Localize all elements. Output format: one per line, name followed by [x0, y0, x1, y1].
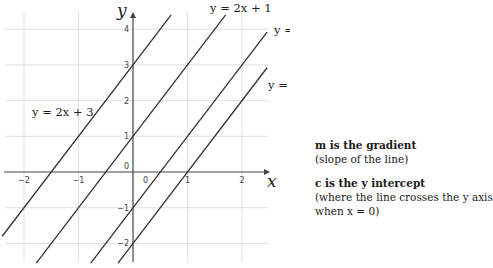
y-tick-label: 2	[124, 97, 129, 106]
label-eq2: y = 2x + 1	[209, 1, 272, 15]
axes	[4, 12, 270, 262]
y-tick-label: 1	[124, 132, 129, 141]
y-tick-label: 4	[124, 25, 129, 34]
explanation-notes: m is the gradient (slope of the line) c …	[315, 138, 425, 218]
series-line	[118, 68, 267, 263]
x-tick-label: 2	[239, 176, 244, 185]
series-line	[36, 15, 225, 263]
series-line	[2, 15, 171, 236]
gradient-desc: (slope of the line)	[315, 152, 425, 166]
x-tick-label: −2	[18, 176, 30, 185]
intercept-desc-1: (where the line crosses the y axis	[315, 190, 425, 204]
series-line	[91, 32, 267, 263]
origin-label: 0	[143, 176, 148, 185]
series-lines	[2, 15, 267, 263]
x-tick-label: −1	[73, 176, 85, 185]
y-axis-label: y	[116, 0, 127, 20]
y-tick-label: −2	[117, 239, 129, 248]
tick-labels: −2−11243210−1−20	[18, 25, 244, 248]
label-eq3: y = 2x − 1	[273, 23, 290, 37]
label-eq1: y = 2x + 3	[31, 105, 94, 119]
x-axis-label: x	[267, 171, 277, 191]
intercept-title: c is the y intercept	[315, 176, 425, 190]
grid	[5, 12, 268, 262]
label-eq4: y = 2x − 2	[267, 78, 290, 92]
y-tick-label: 0	[124, 162, 129, 171]
gradient-title: m is the gradient	[315, 138, 425, 152]
x-tick-label: 1	[185, 176, 190, 185]
line-graph: −2−11243210−1−20 y x y = 2x + 3 y = 2x +…	[0, 0, 290, 268]
y-tick-label: 3	[124, 61, 129, 70]
intercept-desc-2: when x = 0)	[315, 204, 425, 218]
y-tick-label: −1	[117, 204, 129, 213]
y-axis-arrow-icon	[130, 12, 136, 18]
